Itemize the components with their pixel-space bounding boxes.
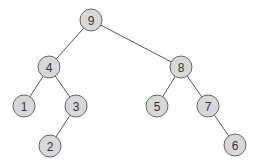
node-label: 4 xyxy=(46,61,53,75)
tree-nodes: 948135726 xyxy=(13,9,246,157)
tree-node-4: 4 xyxy=(38,56,60,78)
tree-node-5: 5 xyxy=(146,95,168,117)
node-label: 8 xyxy=(178,61,185,75)
tree-node-3: 3 xyxy=(65,95,87,117)
tree-node-9: 9 xyxy=(80,9,102,31)
tree-edges xyxy=(24,20,235,146)
node-label: 5 xyxy=(154,100,161,114)
tree-node-8: 8 xyxy=(170,56,192,78)
node-label: 1 xyxy=(21,100,28,114)
tree-edge-9-8 xyxy=(91,20,181,67)
node-label: 2 xyxy=(47,140,54,154)
node-label: 9 xyxy=(88,14,95,28)
binary-tree-diagram: 948135726 xyxy=(0,0,255,164)
tree-node-2: 2 xyxy=(39,135,61,157)
tree-node-7: 7 xyxy=(197,95,219,117)
tree-node-6: 6 xyxy=(224,134,246,156)
tree-node-1: 1 xyxy=(13,95,35,117)
node-label: 6 xyxy=(232,139,239,153)
node-label: 3 xyxy=(73,100,80,114)
node-label: 7 xyxy=(205,100,212,114)
